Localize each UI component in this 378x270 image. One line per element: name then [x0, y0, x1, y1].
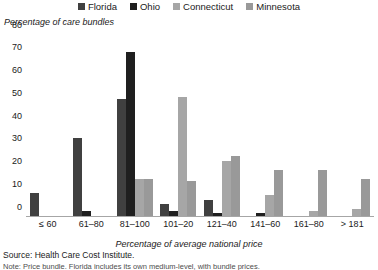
bar-connecticut[interactable]: [135, 179, 144, 215]
x-axis-tick: 141–60: [244, 219, 288, 229]
bar-group: [331, 34, 375, 216]
bar-florida[interactable]: [204, 200, 213, 216]
bar-connecticut[interactable]: [222, 161, 231, 216]
legend-item-connecticut[interactable]: Connecticut: [173, 2, 233, 12]
bar-group: [157, 34, 201, 216]
bar-ohio[interactable]: [82, 211, 91, 216]
y-axis-tick: 50: [12, 88, 22, 97]
x-axis-tick: > 181: [331, 219, 375, 229]
y-axis-tick: 10: [12, 179, 22, 188]
x-axis-tick: 81–100: [113, 219, 157, 229]
chart-container: Florida Ohio Connecticut Minnesota Perce…: [0, 0, 378, 270]
bar-florida[interactable]: [117, 99, 126, 215]
x-axis-tick: 61–80: [70, 219, 114, 229]
bar-group: [113, 34, 157, 216]
bar-minnesota[interactable]: [187, 181, 196, 215]
bar-florida[interactable]: [30, 193, 39, 216]
y-axis-tick: 30: [12, 134, 22, 143]
bar-connecticut[interactable]: [352, 209, 361, 216]
x-axis-tick: 161–80: [287, 219, 331, 229]
bar-minnesota[interactable]: [144, 179, 153, 215]
source-note: Source: Health Care Cost Institute.: [3, 250, 134, 260]
bar-connecticut[interactable]: [309, 211, 318, 216]
bar-group: [26, 34, 70, 216]
bar-florida[interactable]: [73, 138, 82, 215]
legend-item-ohio[interactable]: Ohio: [130, 2, 160, 12]
bar-minnesota[interactable]: [361, 179, 370, 215]
bar-minnesota[interactable]: [231, 156, 240, 215]
y-axis-tick: 40: [12, 111, 22, 120]
x-axis-tick: 121–40: [200, 219, 244, 229]
chart-legend: Florida Ohio Connecticut Minnesota: [0, 2, 378, 12]
y-axis-tick: 0: [17, 202, 22, 211]
bar-ohio[interactable]: [169, 211, 178, 216]
y-axis-tick: 80: [12, 20, 22, 29]
bar-ohio[interactable]: [213, 213, 222, 215]
bar-group: [287, 34, 331, 216]
bar-minnesota[interactable]: [318, 170, 327, 216]
legend-swatch-connecticut: [173, 3, 180, 10]
bar-ohio[interactable]: [126, 52, 135, 216]
x-axis-tick: 101–20: [157, 219, 201, 229]
bar-minnesota[interactable]: [274, 170, 283, 216]
bar-ohio[interactable]: [256, 213, 265, 215]
x-axis-title: Percentage of average national price: [0, 239, 378, 249]
legend-label-connecticut: Connecticut: [183, 2, 233, 12]
plot-area: 80706050403020100: [26, 33, 374, 217]
y-axis-tick: 60: [12, 66, 22, 75]
bar-group: [200, 34, 244, 216]
y-axis-tick: 20: [12, 157, 22, 166]
bar-florida[interactable]: [160, 204, 169, 215]
bar-group: [70, 34, 114, 216]
legend-swatch-minnesota: [246, 3, 253, 10]
bar-connecticut[interactable]: [265, 195, 274, 215]
chart-note: Note: Price bundle. Florida includes its…: [3, 262, 378, 270]
legend-item-minnesota[interactable]: Minnesota: [246, 2, 300, 12]
legend-label-ohio: Ohio: [140, 2, 160, 12]
y-axis-tick: 70: [12, 43, 22, 52]
bar-group: [244, 34, 288, 216]
legend-swatch-florida: [78, 3, 85, 10]
legend-swatch-ohio: [130, 3, 137, 10]
legend-item-florida[interactable]: Florida: [78, 2, 117, 12]
legend-label-minnesota: Minnesota: [256, 2, 300, 12]
x-axis-tick: ≤ 60: [26, 219, 70, 229]
bar-connecticut[interactable]: [178, 97, 187, 215]
legend-label-florida: Florida: [88, 2, 117, 12]
x-axis-baseline: [26, 216, 374, 218]
